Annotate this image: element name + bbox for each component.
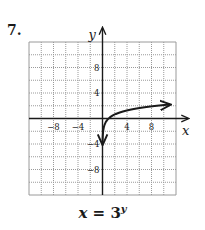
curve-path [103, 105, 170, 144]
y-tick-label: 4 [94, 88, 99, 98]
graph-figure: 7. −8−44884−4−8 x y x = 3y [0, 0, 205, 230]
y-tick-label: −4 [87, 139, 100, 149]
equation-exponent: y [121, 203, 127, 214]
function-curve [103, 105, 170, 144]
x-tick-label: 8 [149, 122, 154, 132]
axes [29, 28, 188, 195]
x-tick-label: −4 [72, 122, 85, 132]
x-tick-label: 4 [124, 122, 129, 132]
coordinate-plane: −8−44884−4−8 x y [0, 0, 205, 230]
x-axis-label: x [182, 123, 190, 138]
equation-caption: x = 3y [0, 203, 205, 222]
y-tick-label: −8 [87, 165, 100, 175]
equation-equals: = [93, 204, 106, 222]
y-tick-label: 8 [94, 63, 99, 73]
equation-base: 3 [110, 204, 120, 222]
y-axis-label: y [88, 27, 97, 42]
x-tick-label: −8 [47, 122, 60, 132]
equation-lhs: x [78, 204, 87, 222]
